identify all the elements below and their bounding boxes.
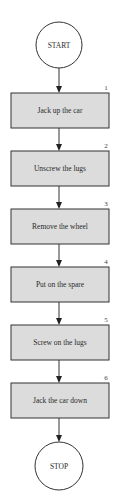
step-number: 6 xyxy=(104,374,108,382)
step-number: 3 xyxy=(104,200,108,208)
step-label: Jack up the car xyxy=(38,106,83,115)
arrowhead-icon xyxy=(56,86,62,93)
step-label: Put on the spare xyxy=(36,280,85,289)
arrowhead-icon xyxy=(56,318,62,325)
start-terminal: START xyxy=(36,22,82,68)
step-label: Unscrew the lugs xyxy=(34,164,86,173)
step-number: 2 xyxy=(104,142,108,150)
stop-label: STOP xyxy=(50,462,68,471)
arrowhead-icon xyxy=(56,260,62,267)
step-number: 4 xyxy=(104,258,108,266)
step-number: 5 xyxy=(104,316,108,324)
stop-terminal: STOP xyxy=(35,442,83,490)
arrowhead-icon xyxy=(56,376,62,383)
step-number: 1 xyxy=(104,84,108,92)
start-label: START xyxy=(48,41,71,50)
step-label: Jack the car down xyxy=(33,396,87,405)
arrowhead-icon xyxy=(56,144,62,151)
arrowhead-icon xyxy=(56,435,62,442)
step-label: Screw on the lugs xyxy=(33,338,87,347)
arrowhead-icon xyxy=(56,202,62,209)
flowchart: START 1 Jack up the car 2 Unscrew the lu… xyxy=(0,0,122,501)
step-label: Remove the wheel xyxy=(32,222,88,231)
